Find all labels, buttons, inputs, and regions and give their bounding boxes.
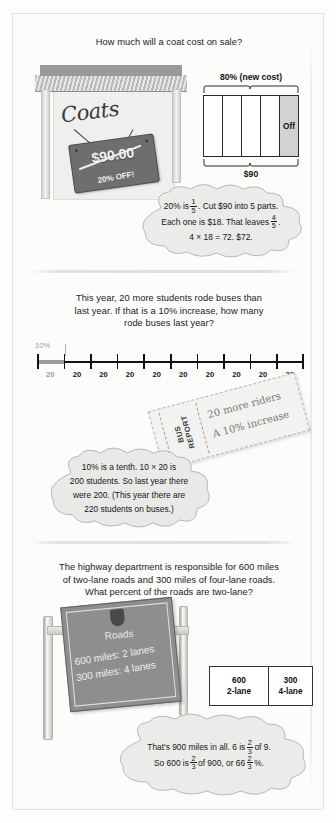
p1-l3: 4 × 18 = 72. $72. <box>189 230 252 244</box>
table-cell-2-lane: 600 2-lane <box>210 667 269 705</box>
p2-l2: 200 students. So last year there <box>70 474 188 488</box>
number-line-tick <box>170 354 172 369</box>
bar-model-bar: Off <box>203 95 299 157</box>
number-line-value: 20 <box>143 370 170 379</box>
panel3-thought-bubble: That's 900 miles in all. 6 is 2 3 of 9. … <box>105 712 313 798</box>
frac-den: 5 <box>190 207 196 214</box>
bar-top-label: 80% (new cost) <box>195 72 307 82</box>
bar-cell <box>223 96 242 156</box>
awning-stripes <box>35 75 187 92</box>
fraction-two-thirds: 2 3 <box>247 739 253 755</box>
panel3-question-line2: of two-lane roads and 300 miles of four-… <box>23 574 315 587</box>
panel1-thought-bubble: 20% is 1 5 . Cut $90 into 5 parts. Each … <box>131 182 311 260</box>
p3-l1a: That's 900 miles in all. 6 is <box>147 740 245 754</box>
panel-coat-sale: How much will a coat cost on sale? Coats… <box>13 14 325 270</box>
number-line-tick <box>117 354 119 369</box>
number-line-value: 20 <box>64 370 91 379</box>
panel2-thought-bubble: 10% is a tenth. 10 × 20 is 200 students.… <box>41 445 217 531</box>
bar-cell <box>204 96 223 156</box>
panel1-bubble-text: 20% is 1 5 . Cut $90 into 5 parts. Each … <box>131 182 311 260</box>
p3-l2c: %. <box>254 756 264 770</box>
p2-l3: were 200. (This year there are <box>73 488 185 502</box>
bar-cell <box>242 96 261 156</box>
p1-l2b: . <box>278 215 280 229</box>
p3-l1b: of 9. <box>254 740 270 754</box>
frac-den: 5 <box>271 222 277 229</box>
panel-highway-roads: The highway department is responsible fo… <box>13 544 325 811</box>
p3-l2b: of 900, or 66 <box>198 756 245 770</box>
number-line-tick <box>37 354 39 369</box>
panel3-bubble-text: That's 900 miles in all. 6 is 2 3 of 9. … <box>105 712 313 798</box>
number-line-tick <box>64 354 66 369</box>
cell-label: 4-lane <box>279 686 303 697</box>
bar-top-brace <box>203 85 299 94</box>
shop-post-right <box>172 89 181 183</box>
cell-value: 300 <box>284 675 298 686</box>
bar-bottom-label: $90 <box>203 169 299 179</box>
panel2-bubble-text: 10% is a tenth. 10 × 20 is 200 students.… <box>41 445 217 531</box>
number-line-tick <box>276 354 278 369</box>
number-line-tick <box>90 354 92 369</box>
awning-top-band <box>40 65 182 76</box>
bar-cell-off: Off <box>280 96 298 156</box>
panel2-question-line3: rode buses last year? <box>29 317 309 330</box>
panel3-question-line1: The highway department is responsible fo… <box>23 561 315 574</box>
fraction-four-fifths: 4 5 <box>271 214 277 230</box>
frac-den: 3 <box>190 763 196 770</box>
worksheet-page: How much will a coat cost on sale? Coats… <box>12 13 324 810</box>
bar-bottom-brace <box>203 158 299 167</box>
panel-bus-riders: This year, 20 more students rode buses t… <box>13 273 325 541</box>
p2-l1: 10% is a tenth. 10 × 20 is <box>82 460 176 474</box>
fraction-two-thirds-mixed: 2 3 <box>247 755 253 771</box>
p3-l2a: So 600 is <box>154 756 189 770</box>
p2-l4: 220 students on buses.) <box>84 502 173 516</box>
panel1-question-line1: How much will a coat cost on sale? <box>29 36 309 49</box>
number-line-percent-label: 10% <box>35 341 50 350</box>
fraction-two-thirds: 2 3 <box>190 755 196 771</box>
panel2-question-line1: This year, 20 more students rode buses t… <box>29 292 309 305</box>
cell-value: 600 <box>232 675 246 686</box>
road-sign: Roads 600 miles: 2 lanes 300 miles: 4 la… <box>60 597 182 712</box>
number-line-value: 20 <box>170 370 197 379</box>
number-line-tick <box>143 354 145 369</box>
table-cell-4-lane: 300 4-lane <box>269 667 312 705</box>
fraction-one-fifth: 1 5 <box>190 198 196 214</box>
bar-model: 80% (new cost) Off $90 <box>195 72 313 182</box>
number-line-tick <box>223 354 225 369</box>
number-line-value: 20 <box>37 370 64 379</box>
number-line-tick <box>197 354 199 369</box>
frac-den: 3 <box>247 763 253 770</box>
p1-l1b: . Cut $90 into 5 parts. <box>198 199 278 213</box>
cell-label: 2-lane <box>227 686 251 697</box>
bar-cell <box>261 96 280 156</box>
number-line-highlight-segment <box>38 360 64 364</box>
p1-l2a: Each one is $18. That leaves <box>161 215 269 229</box>
p1-l1a: 20% is <box>164 199 189 213</box>
number-line-value: 20 <box>197 370 224 379</box>
number-line-value: 20 <box>117 370 144 379</box>
road-miles-table: 600 2-lane 300 4-lane <box>209 666 313 706</box>
storefront-illustration: Coats $90.00 20% OFF! <box>33 56 193 201</box>
number-line-value: 20 <box>90 370 117 379</box>
number-line-value: 20 <box>223 370 250 379</box>
number-line-tick <box>302 354 304 369</box>
number-line-tick <box>250 354 252 369</box>
shop-post-left <box>41 89 50 199</box>
panel2-question-line2: last year. If that is a 10% increase, ho… <box>29 305 309 318</box>
